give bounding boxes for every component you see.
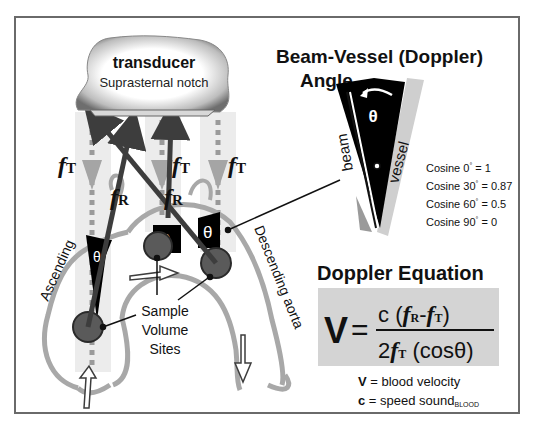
- svg-text:V: V: [324, 310, 348, 351]
- inflow-arrow: [80, 366, 96, 408]
- svg-text:c = speed soundBLOOD: c = speed soundBLOOD: [358, 393, 479, 408]
- svg-text:Sample: Sample: [141, 303, 189, 319]
- svg-text:Cosine 60° = 0.5: Cosine 60° = 0.5: [426, 198, 506, 210]
- svg-text:fT: fT: [172, 152, 190, 178]
- svg-text:2fT (cosθ): 2fT (cosθ): [378, 337, 474, 363]
- svg-text:Cosine 30° = 0.87: Cosine 30° = 0.87: [426, 180, 512, 192]
- transducer: transducer Suprasternal notch: [76, 36, 229, 116]
- svg-text:=: =: [351, 313, 369, 346]
- equation-legend: V = blood velocity c = speed soundBLOOD: [358, 374, 479, 408]
- angle-panel-title: Beam-Vessel (Doppler): [276, 46, 483, 67]
- cosine-table: Cosine 0° = 1 Cosine 30° = 0.87 Cosine 6…: [426, 162, 512, 228]
- svg-text:Sites: Sites: [149, 341, 180, 357]
- beam-label: beam: [333, 133, 356, 173]
- svg-text:Cosine 0° = 1: Cosine 0° = 1: [426, 162, 491, 174]
- svg-text:θ: θ: [203, 223, 212, 242]
- doppler-equation: Doppler Equation V = c (fR-fT) 2fT (cosθ…: [317, 262, 499, 366]
- svg-text:Cosine 90° = 0: Cosine 90° = 0: [426, 216, 497, 228]
- sample-volume-sites-label: Sample Volume Sites: [141, 303, 189, 357]
- equation-title: Doppler Equation: [317, 262, 484, 284]
- transducer-title: transducer: [113, 54, 196, 71]
- svg-text:fT: fT: [58, 152, 76, 178]
- svg-text:fT: fT: [228, 152, 246, 178]
- doppler-diagram: θ θ θ transducer Suprasternal notch fT f…: [0, 0, 534, 436]
- transducer-subtitle: Suprasternal notch: [99, 75, 208, 90]
- svg-text:θ: θ: [368, 107, 377, 126]
- svg-text:V = blood velocity: V = blood velocity: [358, 374, 461, 389]
- svg-text:Volume: Volume: [142, 322, 189, 338]
